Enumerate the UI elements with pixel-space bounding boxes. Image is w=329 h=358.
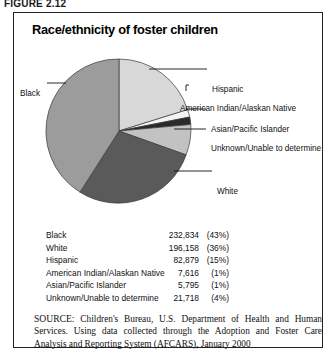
- row-value: 232,834: [119, 230, 199, 240]
- table-row: Unknown/Unable to determine 21,718 (4%): [14, 293, 322, 306]
- table-row: White 196,158 (36%): [14, 243, 322, 256]
- row-label: Black: [46, 230, 66, 240]
- figure-caption: FIGURE 2.12: [4, 0, 66, 8]
- callout-black: Black: [20, 89, 40, 98]
- pie-chart-svg: [14, 41, 322, 229]
- row-label: White: [46, 243, 67, 253]
- pie-slices: [46, 59, 191, 203]
- callout-unknown: Unknown/Unable to determine: [211, 144, 321, 153]
- row-label: Hispanic: [46, 255, 78, 265]
- callout-american-indian: American Indian/Alaskan Native: [180, 104, 296, 113]
- table-row: Hispanic 82,879 (15%): [14, 255, 322, 268]
- row-percent: (36%): [199, 243, 229, 253]
- source-label: SOURCE:: [34, 313, 75, 324]
- leader-line-american-indian: [186, 85, 189, 91]
- row-percent: (43%): [199, 230, 229, 240]
- table-row: American Indian/Alaskan Native 7,616 (1%…: [14, 268, 322, 281]
- source-note: SOURCE: Children's Bureau, U.S. Departme…: [34, 313, 322, 350]
- row-value: 7,616: [119, 268, 199, 278]
- pie-chart: Black Hispanic American Indian/Alaskan N…: [14, 41, 322, 229]
- callout-hispanic: Hispanic: [212, 85, 243, 94]
- chart-title: Race/ethnicity of foster children: [32, 22, 218, 37]
- row-percent: (15%): [199, 255, 229, 265]
- row-value: 5,795: [119, 280, 199, 290]
- row-value: 82,879: [119, 255, 199, 265]
- row-label: Asian/Pacific Islander: [46, 280, 126, 290]
- data-table: Black 232,834 (43%) White 196,158 (36%) …: [14, 230, 322, 306]
- row-percent: (1%): [199, 280, 229, 290]
- callout-asian: Asian/Pacific Islander: [211, 125, 289, 134]
- table-row: Black 232,834 (43%): [14, 230, 322, 243]
- source-text: Children's Bureau, U.S. Department of He…: [34, 314, 322, 349]
- row-percent: (4%): [199, 293, 229, 303]
- callout-white: White: [217, 187, 238, 196]
- figure-frame: Race/ethnicity of foster children: [13, 12, 323, 348]
- table-row: Asian/Pacific Islander 5,795 (1%): [14, 280, 322, 293]
- row-value: 21,718: [119, 293, 199, 303]
- row-value: 196,158: [119, 243, 199, 253]
- row-percent: (1%): [199, 268, 229, 278]
